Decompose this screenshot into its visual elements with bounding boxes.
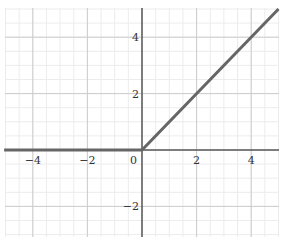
y-tick-label: 4: [132, 31, 139, 44]
x-tick-label: 0: [130, 154, 137, 167]
relu-chart: −4−2024−224: [0, 0, 285, 245]
y-tick-label: −2: [123, 200, 139, 213]
y-tick-label: 2: [132, 88, 139, 101]
x-tick-label: −4: [25, 154, 41, 167]
x-tick-label: −2: [79, 154, 95, 167]
x-tick-label: 2: [193, 154, 200, 167]
x-tick-label: 4: [248, 154, 255, 167]
